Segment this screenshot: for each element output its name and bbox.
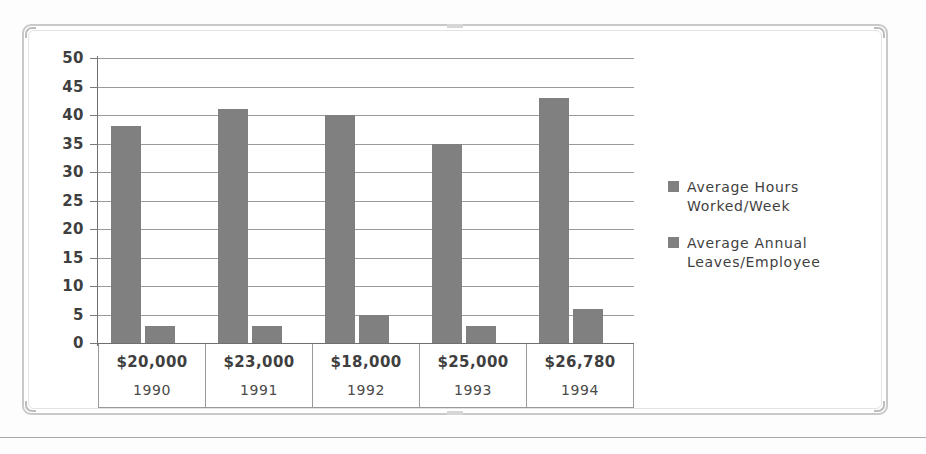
y-axis-tick-15: [90, 258, 98, 259]
category-year-1990: 1990: [133, 382, 171, 398]
y-axis-tick-20: [90, 229, 98, 230]
gridline-45: [98, 87, 634, 88]
bar-1990-series-1[interactable]: [111, 126, 141, 343]
bar-1990-series-2[interactable]: [145, 326, 175, 343]
y-axis-label-0: 0: [50, 336, 84, 351]
category-year-1994: 1994: [561, 382, 599, 398]
category-salary-1994: $26,780: [544, 353, 615, 371]
bar-1992-series-2[interactable]: [359, 315, 389, 344]
chart-legend: Average Hours Worked/WeekAverage Annual …: [668, 178, 868, 290]
y-axis-tick-5: [90, 315, 98, 316]
legend-label-1: Average Hours Worked/Week: [687, 178, 799, 216]
y-axis-label-10: 10: [50, 279, 84, 294]
frame-corner-top-left: [25, 27, 36, 38]
bar-1991-series-2[interactable]: [252, 326, 282, 343]
y-axis-label-25: 25: [50, 194, 84, 209]
category-cell-1990: $20,0001990: [99, 344, 206, 407]
category-year-1993: 1993: [454, 382, 492, 398]
category-cell-1991: $23,0001991: [206, 344, 313, 407]
category-cell-1992: $18,0001992: [313, 344, 420, 407]
category-cell-1994: $26,7801994: [527, 344, 633, 407]
y-axis-label-35: 35: [50, 137, 84, 152]
page-horizontal-rule: [0, 437, 926, 438]
frame-tick-bottom: [447, 411, 463, 415]
y-axis-tick-25: [90, 201, 98, 202]
y-axis-label-15: 15: [50, 251, 84, 266]
legend-item-2[interactable]: Average Annual Leaves/Employee: [668, 234, 868, 272]
legend-swatch-icon-2: [668, 237, 679, 248]
y-axis-tick-35: [90, 144, 98, 145]
category-axis-table: $20,0001990$23,0001991$18,0001992$25,000…: [98, 344, 634, 408]
y-axis-label-30: 30: [50, 165, 84, 180]
y-axis-label-40: 40: [50, 108, 84, 123]
category-salary-1990: $20,000: [116, 353, 187, 371]
bar-1991-series-1[interactable]: [218, 109, 248, 343]
bar-1994-series-1[interactable]: [539, 98, 569, 343]
y-axis-tick-30: [90, 172, 98, 173]
y-axis-label-50: 50: [50, 51, 84, 66]
y-axis-label-20: 20: [50, 222, 84, 237]
y-axis-tick-50: [90, 58, 98, 59]
frame-tick-top: [447, 24, 463, 28]
bar-1993-series-2[interactable]: [466, 326, 496, 343]
plot-area: [98, 58, 634, 343]
category-year-1991: 1991: [240, 382, 278, 398]
y-axis-label-5: 5: [50, 308, 84, 323]
y-axis-tick-45: [90, 87, 98, 88]
y-axis-tick-labels: 50454035302520151050: [48, 0, 84, 454]
category-year-1992: 1992: [347, 382, 385, 398]
y-axis-tick-0: [90, 343, 98, 344]
frame-corner-top-right: [874, 27, 885, 38]
category-salary-1993: $25,000: [437, 353, 508, 371]
frame-corner-bottom-left: [25, 401, 36, 412]
y-axis-tick-10: [90, 286, 98, 287]
bar-1992-series-1[interactable]: [325, 115, 355, 343]
legend-label-2: Average Annual Leaves/Employee: [687, 234, 821, 272]
category-salary-1992: $18,000: [330, 353, 401, 371]
category-cell-1993: $25,0001993: [420, 344, 527, 407]
y-axis-tick-40: [90, 115, 98, 116]
legend-swatch-icon-1: [668, 181, 679, 192]
bar-1994-series-2[interactable]: [573, 309, 603, 343]
frame-corner-bottom-right: [874, 401, 885, 412]
category-salary-1991: $23,000: [223, 353, 294, 371]
bar-1993-series-1[interactable]: [432, 144, 462, 344]
legend-item-1[interactable]: Average Hours Worked/Week: [668, 178, 868, 216]
y-axis-label-45: 45: [50, 80, 84, 95]
gridline-50: [98, 58, 634, 59]
